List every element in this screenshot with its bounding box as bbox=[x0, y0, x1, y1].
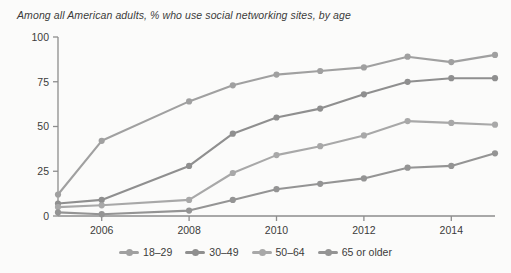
x-axis: 20062008201020122014 bbox=[58, 216, 495, 236]
data-point bbox=[186, 208, 192, 214]
data-point bbox=[492, 150, 498, 156]
data-point bbox=[448, 75, 454, 81]
series-4 bbox=[55, 150, 498, 217]
y-tick-label: 50 bbox=[37, 120, 49, 132]
data-point bbox=[361, 132, 367, 138]
chart-figure: Among all American adults, % who use soc… bbox=[0, 0, 511, 273]
legend-marker-icon bbox=[185, 251, 205, 254]
data-point bbox=[99, 202, 105, 208]
data-point bbox=[273, 114, 279, 120]
data-point bbox=[361, 175, 367, 181]
data-point bbox=[405, 118, 411, 124]
data-point bbox=[273, 72, 279, 78]
legend-marker-icon bbox=[318, 251, 338, 254]
data-point bbox=[448, 59, 454, 65]
data-series-group bbox=[55, 52, 498, 217]
data-point bbox=[186, 197, 192, 203]
data-point bbox=[99, 138, 105, 144]
legend-marker-icon bbox=[252, 251, 272, 254]
data-point bbox=[448, 163, 454, 169]
x-tick-label: 2014 bbox=[440, 224, 464, 236]
x-tick-label: 2008 bbox=[177, 224, 201, 236]
chart-legend: 18–2930–4950–6465 or older bbox=[0, 246, 511, 258]
data-point bbox=[186, 163, 192, 169]
data-point bbox=[405, 165, 411, 171]
x-tick-label: 2010 bbox=[265, 224, 289, 236]
legend-item-4[interactable]: 65 or older bbox=[318, 246, 392, 258]
x-tick-label: 2012 bbox=[352, 224, 376, 236]
data-point bbox=[99, 211, 105, 217]
y-axis: 0255075100 bbox=[31, 31, 58, 222]
data-point bbox=[273, 186, 279, 192]
data-point bbox=[55, 209, 61, 215]
y-tick-label: 25 bbox=[37, 165, 49, 177]
data-point bbox=[361, 91, 367, 97]
series-1 bbox=[55, 52, 498, 198]
data-point bbox=[405, 79, 411, 85]
data-point bbox=[186, 98, 192, 104]
data-point bbox=[273, 152, 279, 158]
data-point bbox=[230, 131, 236, 137]
data-point bbox=[317, 143, 323, 149]
x-tick-label: 2006 bbox=[90, 224, 114, 236]
legend-item-3[interactable]: 50–64 bbox=[252, 246, 305, 258]
data-point bbox=[492, 52, 498, 58]
data-point bbox=[55, 204, 61, 210]
data-point bbox=[55, 191, 61, 197]
legend-label: 65 or older bbox=[342, 246, 392, 258]
y-tick-label: 0 bbox=[43, 210, 49, 222]
y-tick-label: 75 bbox=[37, 76, 49, 88]
legend-label: 30–49 bbox=[209, 246, 238, 258]
data-point bbox=[230, 170, 236, 176]
data-point bbox=[492, 75, 498, 81]
y-tick-label: 100 bbox=[31, 31, 49, 43]
data-point bbox=[492, 122, 498, 128]
data-point bbox=[448, 120, 454, 126]
data-point bbox=[317, 181, 323, 187]
legend-item-1[interactable]: 18–29 bbox=[119, 246, 172, 258]
legend-item-2[interactable]: 30–49 bbox=[185, 246, 238, 258]
legend-marker-icon bbox=[119, 251, 139, 254]
data-point bbox=[361, 64, 367, 70]
legend-label: 50–64 bbox=[276, 246, 305, 258]
data-point bbox=[405, 54, 411, 60]
data-point bbox=[230, 82, 236, 88]
line-chart-plot: 0255075100 20062008201020122014 bbox=[0, 0, 511, 273]
data-point bbox=[230, 197, 236, 203]
data-point bbox=[317, 68, 323, 74]
data-point bbox=[317, 106, 323, 112]
legend-label: 18–29 bbox=[143, 246, 172, 258]
data-point bbox=[99, 197, 105, 203]
